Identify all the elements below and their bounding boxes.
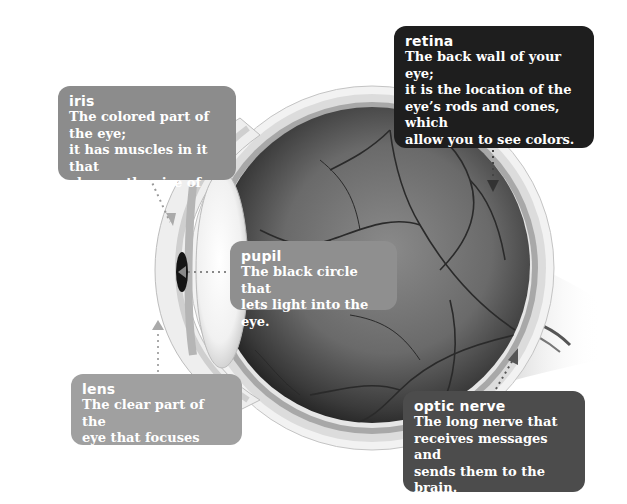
retina-term: retina — [405, 33, 584, 49]
optic-nerve-description: The long nerve that receives messages an… — [414, 414, 575, 497]
lens-term: lens — [82, 381, 232, 397]
iris-description: The colored part of the eye; it has musc… — [69, 109, 226, 208]
lens-description: The clear part of the eye that focuses l… — [82, 397, 232, 463]
retina-callout: retina The back wall of your eye; it is … — [394, 26, 594, 148]
iris-term: iris — [69, 93, 226, 109]
optic-nerve-callout: optic nerve The long nerve that receives… — [403, 391, 585, 492]
pupil-description: The black circle that lets light into th… — [241, 264, 387, 330]
pupil-term: pupil — [241, 248, 387, 264]
pupil-callout: pupil The black circle that lets light i… — [230, 241, 397, 310]
eye-anatomy-diagram: retina The back wall of your eye; it is … — [0, 0, 627, 504]
retina-description: The back wall of your eye; it is the loc… — [405, 49, 584, 148]
optic-nerve-term: optic nerve — [414, 398, 575, 414]
lens-callout: lens The clear part of the eye that focu… — [71, 374, 242, 445]
iris-callout: iris The colored part of the eye; it has… — [58, 86, 236, 180]
